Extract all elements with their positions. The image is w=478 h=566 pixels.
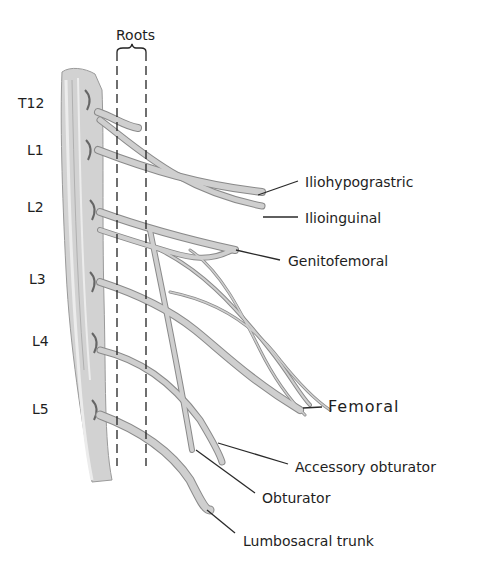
roots-bracket xyxy=(117,44,146,466)
segment-label-l4: L4 xyxy=(32,334,49,348)
roots-label: Roots xyxy=(116,28,155,42)
nerve-illustration xyxy=(0,0,478,566)
leader-lines xyxy=(196,181,322,533)
nerve-label-ilioinguinal: Ilioinguinal xyxy=(305,211,381,225)
lumbar-plexus-diagram: Roots T12 L1 L2 L3 L4 L5 Iliohypograstri… xyxy=(0,0,478,566)
nerve-label-obturator: Obturator xyxy=(262,491,330,505)
nerve-label-genitofemoral: Genitofemoral xyxy=(288,254,388,268)
nerve-label-iliohypogastric: Iliohypograstric xyxy=(305,175,413,189)
nerve-paths xyxy=(98,112,330,510)
segment-label-t12: T12 xyxy=(18,96,44,110)
segment-label-l1: L1 xyxy=(27,143,44,157)
segment-label-l3: L3 xyxy=(29,272,46,286)
nerve-label-accessory-obturator: Accessory obturator xyxy=(295,460,436,474)
nerve-label-femoral: Femoral xyxy=(328,399,399,415)
segment-label-l2: L2 xyxy=(27,200,44,214)
nerve-label-lumbosacral-trunk: Lumbosacral trunk xyxy=(243,534,374,548)
segment-label-l5: L5 xyxy=(32,402,49,416)
